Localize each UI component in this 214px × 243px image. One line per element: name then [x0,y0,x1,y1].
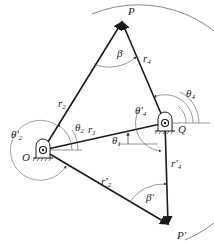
label-theta1: θ1 [112,135,121,148]
label-p: P [128,6,135,17]
label-theta4-prime: θ'4 [135,105,146,118]
linkage-diagram: P P' O Q β β' r1 r2 r'2 r4 r'4 θ1 θ2 θ'2… [0,0,214,243]
label-r4-prime: r'4 [171,158,181,171]
label-r2: r2 [58,98,66,111]
label-beta-prime: β' [146,192,154,203]
label-o: O [22,152,30,163]
label-theta2: θ2 [75,122,84,135]
label-p-prime: P' [177,230,186,241]
label-r2-prime: r'2 [101,176,111,189]
label-r1: r1 [88,124,96,137]
label-r4: r4 [143,53,151,66]
diagram-canvas [0,0,214,243]
link-r4-prime [165,123,168,224]
label-q: Q [178,124,186,135]
label-theta2-prime: θ'2 [11,129,22,142]
pivot-o [33,139,53,161]
label-theta4: θ4 [186,88,195,101]
theta4-arc-3 [178,106,186,123]
label-beta: β [117,48,122,59]
pivot-q [155,112,175,134]
